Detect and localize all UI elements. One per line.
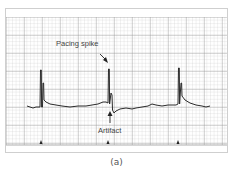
figure-caption: (a): [0, 157, 233, 167]
ecg-strip: Pacing spike Artifact: [0, 0, 233, 173]
artifact-label: Artifact: [98, 126, 122, 135]
pacing-spike-label: Pacing spike: [56, 39, 99, 48]
